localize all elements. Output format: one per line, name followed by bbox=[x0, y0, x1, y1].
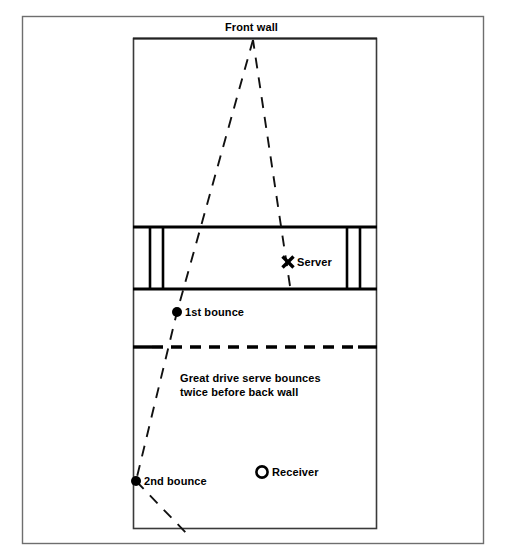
court-diagram-figure: Front wall Server 1st bounce 2nd bounce … bbox=[0, 0, 507, 557]
first-bounce-label: 1st bounce bbox=[185, 306, 244, 319]
caption-line-1: Great drive serve bounces bbox=[180, 371, 321, 385]
server-label: Server bbox=[297, 256, 332, 269]
court-outline bbox=[134, 39, 377, 529]
court-svg bbox=[0, 0, 507, 557]
second-bounce-label: 2nd bounce bbox=[144, 475, 207, 488]
first-bounce-dot-icon bbox=[172, 307, 182, 317]
caption-line-2: twice before back wall bbox=[180, 385, 321, 399]
second-bounce-dot-icon bbox=[131, 476, 141, 486]
receiver-circle-icon bbox=[256, 466, 267, 477]
front-wall-label: Front wall bbox=[225, 21, 278, 34]
caption-text: Great drive serve bounces twice before b… bbox=[180, 371, 321, 399]
receiver-label: Receiver bbox=[272, 466, 319, 479]
